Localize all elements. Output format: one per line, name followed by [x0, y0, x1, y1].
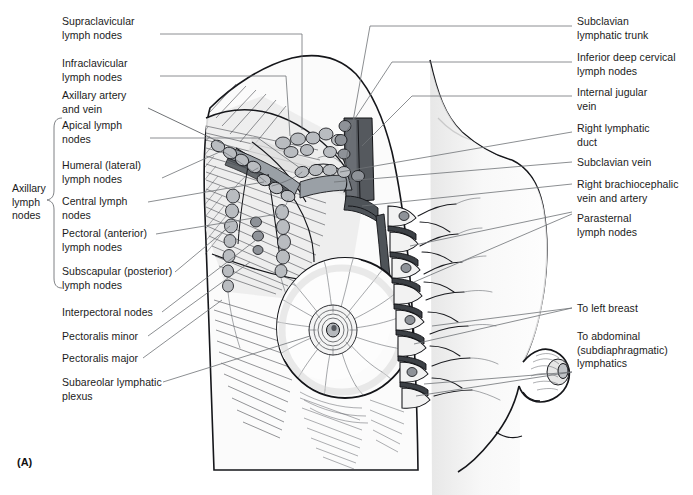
label-central-lymph-nodes: Central lymph nodes [62, 195, 170, 222]
label-apical-lymph-nodes: Apical lymph nodes [62, 119, 170, 146]
label-parasternal-lymph-nodes: Parasternal lymph nodes [577, 212, 687, 239]
label-subscapular-posterior-lymph-nodes: Subscapular (posterior) lymph nodes [62, 265, 198, 292]
label-pectoralis-major: Pectoralis major [62, 352, 182, 366]
label-to-abdominal-lymphatics: To abdominal (subdiaphragmatic) lymphati… [577, 330, 691, 371]
label-right-lymphatic-duct: Right lymphatic duct [577, 122, 687, 149]
label-inferior-deep-cervical-lymph-nodes: Inferior deep cervical lymph nodes [577, 51, 693, 78]
label-axillary-artery-and-vein: Axillary artery and vein [62, 89, 170, 116]
label-internal-jugular-vein: Internal jugular vein [577, 86, 687, 113]
label-to-left-breast: To left breast [577, 302, 687, 316]
label-interpectoral-nodes: Interpectoral nodes [62, 306, 192, 320]
label-subclavian-lymphatic-trunk: Subclavian lymphatic trunk [577, 15, 689, 42]
label-subareolar-lymphatic-plexus: Subareolar lymphatic plexus [62, 376, 188, 403]
label-supraclavicular-lymph-nodes: Supraclavicular lymph nodes [62, 15, 170, 42]
label-right-brachiocephalic-vein-and-artery: Right brachiocephalic vein and artery [577, 178, 693, 205]
label-pectoral-anterior-lymph-nodes: Pectoral (anterior) lymph nodes [62, 227, 184, 254]
label-infraclavicular-lymph-nodes: Infraclavicular lymph nodes [62, 57, 170, 84]
label-pectoralis-minor: Pectoralis minor [62, 330, 182, 344]
label-subclavian-vein: Subclavian vein [577, 156, 687, 170]
label-humeral-lateral-lymph-nodes: Humeral (lateral) lymph nodes [62, 159, 178, 186]
panel-letter: (A) [17, 456, 32, 468]
label-axillary-lymph-nodes-group: Axillary lymph nodes [12, 182, 60, 223]
areola-subareolar-plexus [309, 305, 357, 355]
